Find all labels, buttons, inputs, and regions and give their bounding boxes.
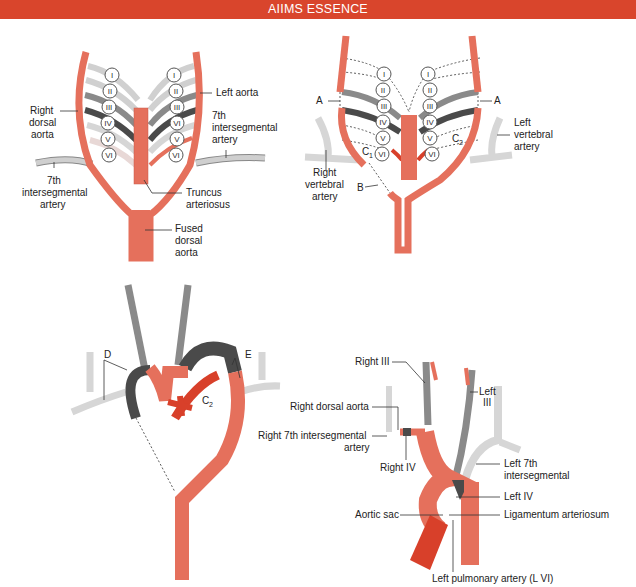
- svg-text:VI: VI: [105, 151, 113, 160]
- svg-text:arteriosus: arteriosus: [186, 199, 230, 210]
- svg-text:III: III: [483, 397, 491, 408]
- right-iii-artery: [426, 362, 428, 425]
- panel-1: I II III IV V VI I II III VI V VI Right …: [22, 52, 278, 258]
- svg-text:I: I: [427, 70, 429, 79]
- svg-text:II: II: [428, 86, 432, 95]
- panel-2: I II III IV V VI I II III IV V VI A A B …: [305, 36, 553, 250]
- label-left-7th: Left 7th: [504, 458, 537, 469]
- svg-text:III: III: [106, 103, 113, 112]
- svg-text:aorta: aorta: [31, 129, 54, 140]
- svg-text:artery: artery: [344, 442, 370, 453]
- svg-text:VI: VI: [173, 119, 181, 128]
- svg-text:IV: IV: [379, 118, 387, 127]
- aortic-arch-diagram: I II III IV V VI I II III VI V VI Right …: [0, 0, 636, 587]
- svg-text:vertebral: vertebral: [305, 179, 344, 190]
- svg-text:dorsal: dorsal: [29, 117, 56, 128]
- arch-e: [185, 348, 235, 372]
- svg-text:II: II: [381, 86, 385, 95]
- arch-d: [130, 370, 150, 418]
- svg-text:artery: artery: [40, 199, 66, 210]
- svg-text:intersegmental: intersegmental: [504, 470, 570, 481]
- label-left-iii: Left: [479, 386, 496, 397]
- panel2-numerals-right: I II III IV V VI: [375, 67, 391, 161]
- svg-text:IV: IV: [104, 119, 112, 128]
- svg-text:I: I: [383, 70, 385, 79]
- svg-text:V: V: [380, 134, 386, 143]
- svg-text:VI: VI: [172, 151, 180, 160]
- label-a-right: A: [316, 95, 323, 106]
- label-fused-dorsal-aorta: Fused: [175, 223, 203, 234]
- svg-text:aorta: aorta: [175, 247, 198, 258]
- label-7th-intersegmental-right: 7th: [47, 175, 61, 186]
- svg-text:V: V: [427, 134, 433, 143]
- label-right-iii: Right III: [355, 356, 389, 367]
- svg-text:dorsal: dorsal: [175, 235, 202, 246]
- svg-text:artery: artery: [514, 141, 540, 152]
- label-ligamentum-arteriosum: Ligamentum arteriosum: [504, 509, 609, 520]
- svg-text:I: I: [111, 71, 113, 80]
- svg-text:V: V: [105, 135, 111, 144]
- svg-text:II: II: [108, 87, 112, 96]
- truncus-arteriosus: [134, 108, 148, 184]
- right-iv-segment: [403, 428, 411, 436]
- svg-text:2: 2: [459, 139, 463, 146]
- svg-text:III: III: [381, 102, 388, 111]
- svg-text:III: III: [427, 102, 434, 111]
- svg-text:vertebral: vertebral: [514, 129, 553, 140]
- label-left-aorta: Left aorta: [216, 87, 259, 98]
- label-7th-intersegmental-left: 7th: [212, 110, 226, 121]
- label-a-left: A: [494, 95, 501, 106]
- svg-text:artery: artery: [312, 191, 338, 202]
- label-right-7th-intersegmental: Right 7th intersegmental: [258, 430, 366, 441]
- label-left-vertebral-artery: Left: [514, 117, 531, 128]
- label-right-iv: Right IV: [380, 462, 416, 473]
- svg-text:VI: VI: [378, 150, 386, 159]
- svg-text:VI: VI: [428, 150, 436, 159]
- truncus-arteriosus-2: [401, 115, 417, 180]
- label-right-dorsal-aorta-4: Right dorsal aorta: [290, 401, 369, 412]
- pulmonary-trunk-4: [410, 515, 448, 570]
- label-b: B: [357, 182, 364, 193]
- label-right-dorsal-aorta: Right: [30, 105, 54, 116]
- label-aortic-sac: Aortic sac: [355, 509, 399, 520]
- label-left-pulmonary-artery: Left pulmonary artery (L VI): [432, 573, 553, 584]
- label-truncus-arteriosus: Truncus: [186, 187, 222, 198]
- svg-text:2: 2: [209, 401, 213, 408]
- svg-text:artery: artery: [212, 134, 238, 145]
- label-e: E: [245, 349, 252, 360]
- label-d: D: [104, 349, 111, 360]
- svg-text:intersegmental: intersegmental: [212, 122, 278, 133]
- label-left-iv: Left IV: [504, 491, 533, 502]
- svg-text:I: I: [173, 71, 175, 80]
- panel-3: D E C 2: [72, 285, 280, 580]
- svg-text:III: III: [174, 103, 181, 112]
- svg-text:1: 1: [369, 152, 373, 159]
- svg-text:V: V: [174, 135, 180, 144]
- label-right-vertebral-artery: Right: [313, 167, 337, 178]
- svg-text:II: II: [174, 87, 178, 96]
- panel-4: Right III Left III Right dorsal aorta Ri…: [258, 356, 609, 584]
- svg-text:IV: IV: [426, 118, 434, 127]
- svg-text:intersegmental: intersegmental: [22, 187, 88, 198]
- right-subclavian-branch: [72, 352, 126, 412]
